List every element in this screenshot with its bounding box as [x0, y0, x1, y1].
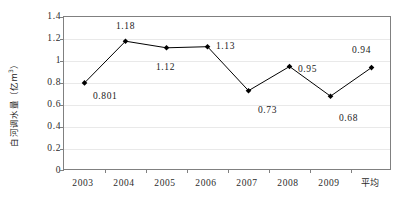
data-label: 1.13 — [216, 41, 235, 51]
x-tick-label: 平均 — [345, 178, 395, 189]
y-tick-label: 0.8 — [21, 77, 61, 87]
y-tick-label: 0.6 — [21, 99, 61, 109]
y-axis-title-tail: ） — [9, 59, 19, 68]
data-label: 1.12 — [156, 62, 175, 72]
y-tick-label: 0 — [21, 165, 61, 175]
chart-figure: 白河调水量（亿m3） 1.4 1.2 1 0.8 0.6 0.4 0.2 0 — [0, 0, 410, 214]
data-label: 0.94 — [352, 45, 371, 55]
data-label: 1.18 — [116, 21, 135, 31]
y-axis-title-text: 白河调水量（亿m3） — [7, 59, 19, 146]
y-axis-title: 白河调水量（亿m3） — [4, 42, 22, 164]
y-axis-title-main: 白河调水量（亿m — [9, 73, 19, 147]
y-tick-label: 1.4 — [21, 11, 61, 21]
data-label: 0.801 — [93, 91, 117, 101]
data-label: 0.95 — [298, 64, 317, 74]
y-axis-title-exponent: 3 — [7, 69, 14, 73]
data-label: 0.68 — [339, 113, 358, 123]
data-point — [164, 45, 170, 51]
y-tick-label: 0.4 — [21, 121, 61, 131]
plot-area: 0.801 1.18 1.12 1.13 0.73 0.95 0.68 0.94 — [63, 16, 391, 170]
y-tick-label: 0.2 — [21, 143, 61, 153]
data-label: 0.73 — [258, 105, 277, 115]
y-tick-label: 1.2 — [21, 33, 61, 43]
y-tick-label: 1 — [21, 55, 61, 65]
